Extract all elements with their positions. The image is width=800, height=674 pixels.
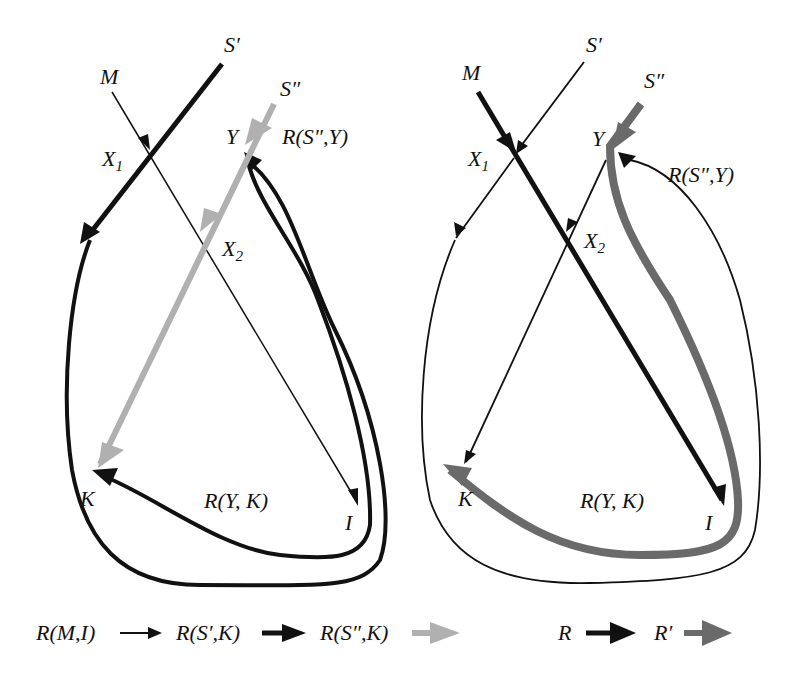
label-k: K xyxy=(79,486,96,511)
left-panel: S′ M S″ Y R(S″,Y) X1 X2 K R(Y, K) I xyxy=(67,32,386,585)
m-to-i-line xyxy=(478,92,722,500)
s-prime-to-x1-line xyxy=(518,62,584,150)
legend-black-arrowhead-icon xyxy=(610,622,636,644)
legend-lightgray-arrowhead-icon xyxy=(430,622,460,644)
arrowhead-y-k xyxy=(464,450,476,464)
label-x1: X1 xyxy=(101,146,123,174)
label-s-prime: S′ xyxy=(224,32,241,57)
label-y: Y xyxy=(226,124,241,149)
legend-right: R R′ xyxy=(557,620,732,646)
label-r-y-k: R(Y, K) xyxy=(579,488,644,513)
label-i: I xyxy=(344,510,354,535)
legend-thick-black-arrowhead-icon xyxy=(282,624,306,642)
label-r-y-k: R(Y, K) xyxy=(203,488,268,513)
legend-darkgray-arrowhead-icon xyxy=(702,620,732,646)
label-r-s-dprime-y: R(S″,Y) xyxy=(667,162,734,187)
arrowhead-into-k xyxy=(92,468,118,486)
arrowhead-r-prime-y xyxy=(612,122,636,150)
outer-loop-path xyxy=(67,160,386,585)
label-r-s-dprime-y: R(S″,Y) xyxy=(281,124,348,149)
label-m: M xyxy=(99,64,120,89)
label-k: K xyxy=(457,486,474,511)
legend-item-label: R(M,I) xyxy=(35,620,95,645)
arrowhead-gray-k xyxy=(98,442,124,468)
label-x2: X2 xyxy=(221,236,243,264)
legend-item-label: R′ xyxy=(653,620,673,645)
diagram-canvas: S′ M S″ Y R(S″,Y) X1 X2 K R(Y, K) I S′ xyxy=(0,0,800,674)
legend-item-label: R(S′,K) xyxy=(175,620,240,645)
arrowhead-m-x1 xyxy=(496,132,516,152)
label-s-prime: S′ xyxy=(586,32,603,57)
label-i: I xyxy=(704,510,714,535)
y-to-k-line xyxy=(466,160,606,462)
legend-thin-black-arrowhead-icon xyxy=(148,627,162,639)
arrowhead-s-prime-x1 xyxy=(516,140,528,154)
label-s-dprime: S″ xyxy=(644,68,665,93)
label-m: M xyxy=(461,60,482,85)
arrowhead-m-i xyxy=(348,488,358,506)
s-dprime-to-k-line xyxy=(100,104,274,464)
right-panel: S′ M S″ Y R(S″,Y) X1 X2 K R(Y, K) I xyxy=(422,32,760,583)
label-y: Y xyxy=(592,126,607,151)
legend-left: R(M,I) R(S′,K) R(S″,K) xyxy=(35,620,460,645)
label-x2: X2 xyxy=(583,228,605,256)
label-s-dprime: S″ xyxy=(280,76,301,101)
legend-item-label: R xyxy=(557,620,572,645)
legend-item-label: R(S″,K) xyxy=(319,620,388,645)
label-x1: X1 xyxy=(467,146,489,174)
arrowhead-m-x1 xyxy=(138,134,150,150)
